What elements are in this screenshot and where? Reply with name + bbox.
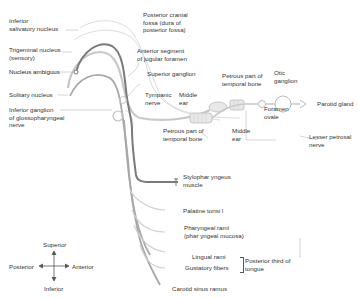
label-inferior-salivatory-nucleus: Inferior salivatory nucleus — [9, 17, 58, 32]
nucleus-ambiguus-dot — [74, 70, 78, 74]
label-middle-ear-bottom: Middle ear — [232, 127, 250, 142]
bracket-icon — [240, 257, 244, 273]
main-trunk — [70, 75, 160, 285]
label-petrous-bottom: Petrous part of temporal bone — [163, 127, 204, 142]
label-inferior-ganglion: Inferior ganglion of glossopharyngeal ne… — [9, 106, 64, 129]
label-foramen-ovale: Foramen ovale — [264, 105, 289, 120]
label-parotid-gland: Parotid gland — [317, 100, 353, 108]
label-posterior-third-tongue: Posterior third of tongue — [245, 257, 290, 272]
label-posterior-cranial-fossa: Posterior cranial fossa (dura of posteri… — [143, 11, 188, 34]
compass-anterior: Anterior — [72, 263, 94, 271]
label-tympanic-nerve: Tympanic nerve — [145, 91, 171, 106]
compass-inferior: Inferior — [44, 285, 63, 293]
compass-icon — [39, 251, 69, 281]
label-pharyngeal-rami: Pharyngeal rami (phar yngeal mucosa) — [184, 224, 244, 239]
compass-posterior: Posterior — [9, 263, 34, 271]
inferior-ganglion-shape — [113, 111, 123, 121]
label-palatine-tonsil: Palatine tonsi l — [183, 207, 223, 215]
label-gustatory-fibers: Gustatory fibers — [185, 264, 229, 272]
label-otic-ganglion: Otic ganglion — [274, 69, 297, 84]
label-solitary-nucleus: Solitary nucleus — [9, 91, 53, 99]
compass-superior: Superior — [43, 241, 66, 249]
label-lingual-rami: Lingual rami — [192, 253, 226, 261]
label-jugular-foramen: Anterior segment of jugular foramen — [137, 47, 187, 62]
branch-lines — [130, 190, 165, 268]
label-stylopharyngeus-muscle: Stylophar yngeus muscle — [183, 173, 231, 188]
label-middle-ear-top: Middle ear — [179, 91, 197, 106]
nerve-diagram — [0, 0, 358, 298]
label-nucleus-ambiguus: Nucleus ambiguus — [9, 68, 60, 76]
label-lesser-petrosal-nerve: Lesser petrosal nerve — [309, 133, 351, 148]
label-superior-ganglion: Superior ganglion — [147, 70, 196, 78]
label-petrous-top: Petrous part of temporal bone — [222, 72, 263, 87]
parotid-arrow — [300, 100, 306, 108]
label-carotid-sinus-ramus: Carotid sinus ramus — [172, 285, 227, 293]
label-trigeminal-nucleus: Trigeminal nucleus (sensory) — [9, 46, 61, 61]
